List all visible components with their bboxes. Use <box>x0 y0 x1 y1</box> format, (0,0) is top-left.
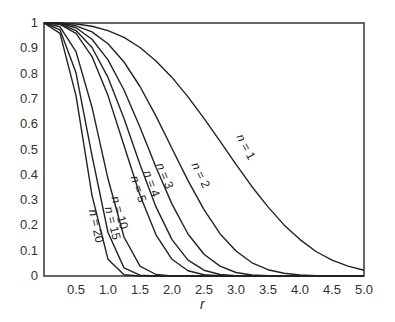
x-tick-label: 2.5 <box>195 282 213 297</box>
y-tick-label: 0.6 <box>20 116 38 131</box>
x-tick-label: 3.5 <box>259 282 277 297</box>
x-tick-label: 1.5 <box>131 282 149 297</box>
x-tick-label: 1.0 <box>99 282 117 297</box>
x-tick-label: 2.0 <box>163 282 181 297</box>
y-tick-label: 0.8 <box>20 66 38 81</box>
curve-label: n = 2 <box>189 160 214 191</box>
x-tick-label: 4.0 <box>291 282 309 297</box>
chart: 00.10.20.30.40.50.60.70.80.910.51.01.52.… <box>0 0 395 322</box>
x-tick-label: 0.5 <box>67 282 85 297</box>
x-tick-label: 5.0 <box>355 282 373 297</box>
x-axis-label: r <box>200 296 205 312</box>
y-tick-label: 0.5 <box>20 142 38 157</box>
y-tick-label: 0.7 <box>20 91 38 106</box>
y-tick-label: 0 <box>31 268 38 283</box>
y-tick-label: 0.9 <box>20 40 38 55</box>
y-tick-label: 0.4 <box>20 167 38 182</box>
y-tick-label: 0.3 <box>20 192 38 207</box>
x-tick-label: 4.5 <box>323 282 341 297</box>
x-tick-label: 3.0 <box>227 282 245 297</box>
y-tick-label: 1 <box>31 15 38 30</box>
y-tick-label: 0.2 <box>20 217 38 232</box>
y-tick-label: 0.1 <box>20 243 38 258</box>
line-chart: 00.10.20.30.40.50.60.70.80.910.51.01.52.… <box>0 0 395 322</box>
curve-label: n = 1 <box>233 132 258 163</box>
